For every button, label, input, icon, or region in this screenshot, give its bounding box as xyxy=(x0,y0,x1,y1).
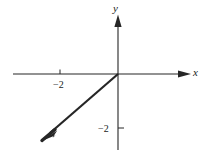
x-tick-label-minus-two: −2 xyxy=(53,79,64,90)
y-tick-label-minus-two: −2 xyxy=(98,123,109,134)
coordinate-plane-canvas: x y −2 −2 xyxy=(0,0,206,153)
y-axis-arrowhead-icon xyxy=(114,15,121,28)
x-axis-group xyxy=(13,70,191,78)
y-axis-label: y xyxy=(112,2,118,14)
x-axis-arrowhead-icon xyxy=(178,70,191,77)
x-axis-label: x xyxy=(192,66,198,78)
graph-figure: x y −2 −2 xyxy=(0,0,206,153)
y-axis-group xyxy=(114,15,124,151)
